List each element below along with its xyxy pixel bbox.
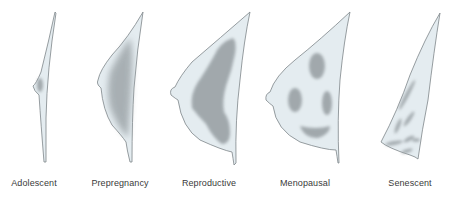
prepregnancy-illustration (97, 12, 143, 162)
label-menopausal: Menopausal (280, 178, 330, 188)
label-senescent: Senescent (388, 178, 431, 188)
senescent-illustration (381, 13, 440, 159)
menopausal-illustration (266, 12, 350, 163)
breast-stages-diagram (0, 0, 451, 202)
label-adolescent: Adolescent (11, 178, 57, 188)
adolescent-gland (37, 78, 43, 92)
adolescent-illustration (33, 12, 56, 162)
label-reproductive: Reproductive (182, 178, 236, 188)
reproductive-illustration (171, 12, 251, 165)
label-prepregnancy: Prepregnancy (91, 178, 148, 188)
